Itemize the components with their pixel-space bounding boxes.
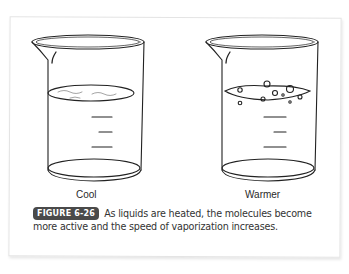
beaker-warmer-icon xyxy=(206,35,318,181)
beaker-label-cool: Cool xyxy=(76,189,97,200)
beaker-cool-icon xyxy=(32,35,144,181)
figure-caption: FIGURE 6-26As liquids are heated, the mo… xyxy=(33,207,323,233)
beaker-label-warmer: Warmer xyxy=(245,189,280,200)
figure-number-badge: FIGURE 6-26 xyxy=(33,207,99,220)
